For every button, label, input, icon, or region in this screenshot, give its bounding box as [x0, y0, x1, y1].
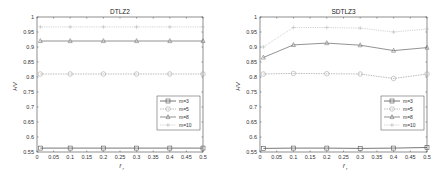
figure: 00.050.10.150.20.250.30.350.40.450.50.55… [0, 0, 446, 177]
x-tick-label: 0.2 [323, 154, 331, 160]
legend: m=3m=5m=8m=10 [157, 96, 200, 130]
chart-canvas: 00.050.10.150.20.250.30.350.40.450.50.55… [0, 0, 446, 177]
chart-title: SDTLZ3 [331, 8, 356, 15]
y-tick-label: 0.7 [26, 104, 34, 110]
x-tick-label: 0.35 [148, 154, 159, 160]
y-tick-label: 0.75 [246, 89, 257, 95]
x-tick-label: 0.3 [356, 154, 364, 160]
y-tick-label: 0.9 [249, 44, 257, 50]
y-axis-label: HV [12, 81, 18, 90]
y-tick-label: 1 [254, 14, 257, 20]
y-tick-label: 0.6 [249, 134, 257, 140]
x-tick-label: 0.15 [81, 154, 92, 160]
y-tick-label: 0.7 [249, 104, 257, 110]
x-tick-label: 0.4 [390, 154, 398, 160]
legend-item-label: m=10 [179, 122, 192, 128]
y-tick-label: 0.9 [26, 44, 34, 50]
x-tick-label: 0.45 [405, 154, 416, 160]
y-tick-label: 0.55 [246, 149, 257, 155]
x-tick-label: 0.15 [305, 154, 316, 160]
x-tick-label: 0.5 [199, 154, 207, 160]
plot-area [260, 17, 427, 152]
x-tick-label: 0.35 [372, 154, 383, 160]
chart-panel-sdtlz3: 00.050.10.150.20.250.30.350.40.450.50.55… [235, 8, 431, 171]
x-tick-label: 0.05 [271, 154, 282, 160]
x-tick-label: 0.5 [423, 154, 431, 160]
x-tick-label: 0.45 [181, 154, 192, 160]
x-axis-label-subscript: r [123, 166, 125, 171]
y-tick-label: 0.8 [26, 74, 34, 80]
x-tick-label: 0.4 [166, 154, 174, 160]
chart-title: DTLZ2 [110, 8, 130, 15]
x-tick-label: 0.25 [115, 154, 126, 160]
y-tick-label: 1 [31, 14, 34, 20]
legend-item-label: m=5 [403, 106, 413, 112]
y-tick-label: 0.95 [246, 29, 257, 35]
y-tick-label: 0.6 [26, 134, 34, 140]
legend-item-label: m=10 [403, 122, 416, 128]
y-tick-label: 0.95 [23, 29, 34, 35]
y-tick-label: 0.65 [23, 119, 34, 125]
x-tick-label: 0.25 [338, 154, 349, 160]
x-tick-label: 0.3 [133, 154, 141, 160]
legend-item-label: m=5 [179, 106, 189, 112]
chart-panel-dtlz2: 00.050.10.150.20.250.30.350.40.450.50.55… [12, 8, 207, 171]
y-tick-label: 0.65 [246, 119, 257, 125]
y-tick-label: 0.8 [249, 74, 257, 80]
y-tick-label: 0.85 [23, 59, 34, 65]
x-tick-label: 0.05 [48, 154, 59, 160]
legend-item-label: m=8 [403, 114, 413, 120]
y-tick-label: 0.85 [246, 59, 257, 65]
plot-area [37, 17, 203, 152]
legend-item-label: m=3 [179, 98, 189, 104]
x-tick-label: 0.1 [290, 154, 298, 160]
x-axis-label-subscript: r [346, 166, 348, 171]
x-tick-label: 0 [258, 154, 261, 160]
x-tick-label: 0 [35, 154, 38, 160]
y-tick-label: 0.55 [23, 149, 34, 155]
y-tick-label: 0.75 [23, 89, 34, 95]
x-tick-label: 0.1 [66, 154, 74, 160]
legend-item-label: m=3 [403, 98, 413, 104]
x-tick-label: 0.2 [100, 154, 108, 160]
y-axis-label: HV [235, 81, 241, 90]
legend: m=3m=5m=8m=10 [381, 96, 424, 130]
legend-item-label: m=8 [179, 114, 189, 120]
